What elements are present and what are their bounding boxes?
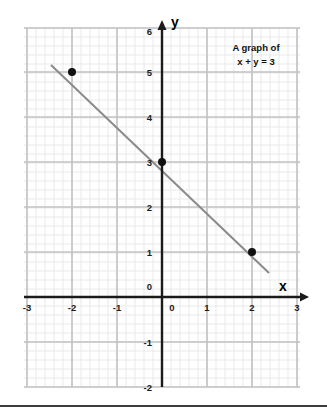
data-point-marker: [158, 158, 166, 166]
annotation-line-2: x + y = 3: [237, 56, 275, 67]
x-tick-label: 2: [249, 302, 254, 313]
y-tick-label: 0: [147, 281, 152, 292]
coordinate-plane: -3 -2 -1 0 1 2 3 -2 -1 0 1 2 3 4 5 6 x y…: [0, 0, 327, 415]
x-tick-label: -2: [68, 302, 76, 313]
graph-figure: -3 -2 -1 0 1 2 3 -2 -1 0 1 2 3 4 5 6 x y…: [0, 0, 327, 415]
x-tick-label: 0: [169, 302, 174, 313]
x-tick-label: -3: [23, 302, 31, 313]
x-tick-label: 1: [204, 302, 210, 313]
y-tick-label: 4: [147, 112, 153, 123]
x-tick-label: 3: [294, 302, 299, 313]
data-point-marker: [248, 248, 256, 256]
y-tick-label: 1: [147, 247, 153, 258]
y-axis-label: y: [171, 14, 179, 30]
y-tick-label: 6: [147, 26, 152, 37]
y-tick-label: 2: [147, 202, 152, 213]
y-tick-label: 5: [147, 67, 153, 78]
x-tick-label: -1: [113, 302, 122, 313]
y-tick-label: -2: [144, 382, 152, 393]
data-point-marker: [68, 68, 76, 76]
annotation-line-1: A graph of: [232, 42, 280, 53]
y-tick-label: 3: [147, 157, 152, 168]
y-tick-label: -1: [144, 337, 153, 348]
x-axis-label: x: [279, 278, 287, 294]
